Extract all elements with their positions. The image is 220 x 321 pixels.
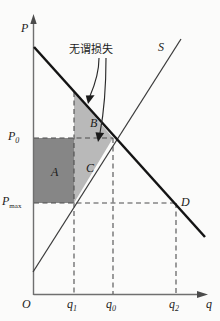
quantity-tick-q2-sub: 2 <box>175 304 179 313</box>
price-tick-p0: P0 <box>8 130 19 145</box>
y-axis-label: P <box>21 22 28 34</box>
quantity-tick-q1-sub: 1 <box>73 304 77 313</box>
quantity-tick-q0-sub: 0 <box>112 304 116 313</box>
supply-curve-label: S <box>158 41 164 53</box>
region-b-label: B <box>90 117 97 129</box>
price-tick-pmax-sub: max <box>9 202 21 210</box>
region-a-label: A <box>51 166 58 178</box>
origin-label: O <box>22 298 31 310</box>
y-axis-arrowhead <box>30 14 36 24</box>
region-c-label: C <box>86 162 94 174</box>
price-tick-pmax: Pmax <box>2 195 21 210</box>
quantity-tick-q0: q0 <box>106 298 116 313</box>
annotation-leader-to-b <box>90 58 99 96</box>
deadweight-loss-annotation: 无谓损失 <box>69 40 113 56</box>
quantity-tick-q1: q1 <box>67 298 77 313</box>
annotation-arrowhead-b <box>86 95 95 104</box>
demand-curve-label: D <box>181 196 190 208</box>
quantity-tick-q2: q2 <box>169 298 179 313</box>
x-axis-label: q <box>206 298 212 310</box>
price-ceiling-diagram: P q O P0 Pmax q1 q0 q2 S D A B C 无谓损失 <box>0 0 220 321</box>
price-tick-p0-sub: 0 <box>15 136 19 145</box>
